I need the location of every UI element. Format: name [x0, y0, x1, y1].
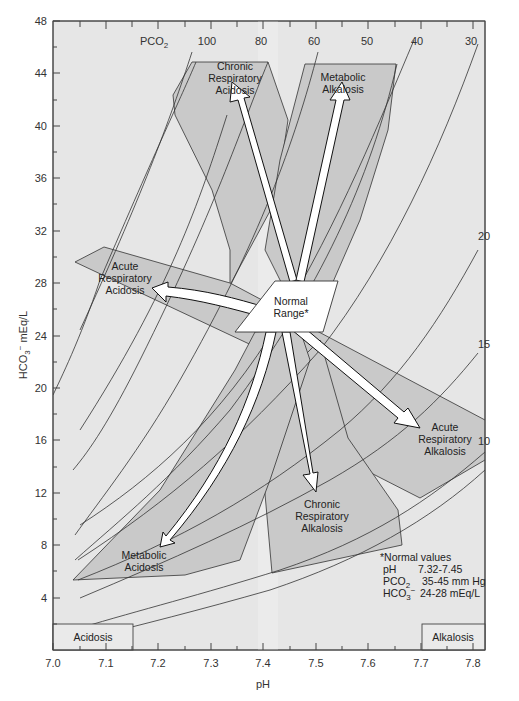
svg-text:Metabolic: Metabolic: [321, 71, 366, 83]
svg-text:7.2: 7.2: [150, 657, 165, 669]
svg-text:Alkalosis: Alkalosis: [424, 445, 465, 457]
svg-text:Acute: Acute: [432, 421, 459, 433]
svg-text:Normal: Normal: [274, 295, 308, 307]
svg-text:4: 4: [41, 592, 47, 604]
svg-text:7.3: 7.3: [203, 657, 218, 669]
svg-text:7.7: 7.7: [413, 657, 428, 669]
svg-text:40: 40: [411, 35, 423, 47]
y-tick-labels: 4 8 12 16 20 24 28 32 36 40 44 48: [35, 15, 47, 604]
svg-text:8: 8: [41, 539, 47, 551]
x-axis-label: pH: [256, 678, 270, 690]
svg-text:24: 24: [35, 330, 47, 342]
svg-text:20: 20: [478, 230, 490, 242]
svg-text:10: 10: [478, 435, 490, 447]
svg-text:20: 20: [35, 382, 47, 394]
svg-text:*Normal values: *Normal values: [380, 551, 451, 563]
svg-text:28: 28: [35, 277, 47, 289]
svg-text:16: 16: [35, 434, 47, 446]
svg-text:48: 48: [35, 15, 47, 27]
svg-text:Acidosis: Acidosis: [124, 561, 163, 573]
svg-text:7.1: 7.1: [98, 657, 113, 669]
svg-text:7.0: 7.0: [45, 657, 60, 669]
svg-text:Metabolic: Metabolic: [122, 549, 167, 561]
svg-text:Respiratory: Respiratory: [98, 272, 152, 284]
svg-text:44: 44: [35, 67, 47, 79]
svg-text:12: 12: [35, 487, 47, 499]
svg-text:7.32-7.45: 7.32-7.45: [418, 563, 463, 575]
svg-text:Acute: Acute: [112, 260, 139, 272]
svg-text:35-45 mm Hg: 35-45 mm Hg: [422, 575, 486, 587]
svg-text:Respiratory: Respiratory: [418, 433, 472, 445]
y-axis-label: HCO3− mEq/L: [16, 311, 32, 379]
svg-text:Respiratory: Respiratory: [208, 72, 262, 84]
svg-text:24-28 mEq/L: 24-28 mEq/L: [420, 587, 480, 599]
svg-text:50: 50: [361, 35, 373, 47]
svg-text:pH: pH: [383, 563, 396, 575]
svg-text:100: 100: [198, 35, 216, 47]
svg-text:36: 36: [35, 172, 47, 184]
svg-text:Respiratory: Respiratory: [295, 510, 349, 522]
svg-text:15: 15: [478, 338, 490, 350]
svg-text:7.4: 7.4: [255, 657, 270, 669]
svg-text:Alkalosis: Alkalosis: [322, 83, 363, 95]
svg-text:Range*: Range*: [273, 307, 308, 319]
svg-text:Chronic: Chronic: [217, 60, 253, 72]
svg-text:Acidosis: Acidosis: [105, 284, 144, 296]
svg-text:7.5: 7.5: [308, 657, 323, 669]
svg-text:32: 32: [35, 225, 47, 237]
svg-text:80: 80: [255, 35, 267, 47]
alkalosis-label: Alkalosis: [432, 631, 473, 643]
svg-text:7.6: 7.6: [360, 657, 375, 669]
svg-text:Acidosis: Acidosis: [215, 84, 254, 96]
svg-text:Chronic: Chronic: [304, 498, 340, 510]
svg-text:Alkalosis: Alkalosis: [301, 522, 342, 534]
svg-text:30: 30: [465, 35, 477, 47]
svg-text:40: 40: [35, 120, 47, 132]
acid-base-nomogram: 4 8 12 16 20 24 28 32 36 40 44 48 HCO3− …: [0, 0, 519, 701]
svg-text:7.8: 7.8: [465, 657, 480, 669]
acidosis-label: Acidosis: [73, 631, 112, 643]
x-tick-labels: 7.0 7.1 7.2 7.3 7.4 7.5 7.6 7.7 7.8: [45, 657, 480, 669]
svg-text:60: 60: [308, 35, 320, 47]
